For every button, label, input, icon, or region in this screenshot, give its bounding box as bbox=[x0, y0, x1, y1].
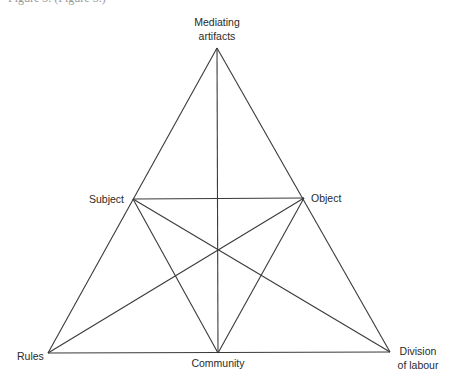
node-label-subject: Subject bbox=[89, 192, 124, 206]
node-label-object: Object bbox=[311, 191, 341, 205]
activity-triangle-diagram bbox=[0, 0, 454, 388]
node-label-rules: Rules bbox=[17, 349, 44, 363]
edge-object-rules bbox=[48, 198, 304, 353]
edge-subject-division bbox=[133, 199, 390, 352]
node-label-mediating-artifacts: Mediating artifacts bbox=[187, 15, 247, 43]
division-line1: Division bbox=[393, 344, 443, 358]
node-label-division-of-labour: Division of labour bbox=[393, 344, 443, 372]
mediating-artifacts-line2: artifacts bbox=[187, 29, 247, 43]
edge-subject-object bbox=[133, 198, 304, 199]
edge-artifacts-community bbox=[217, 48, 218, 353]
edge-artifacts-rules bbox=[48, 48, 217, 353]
node-label-community: Community bbox=[188, 356, 248, 370]
division-line2: of labour bbox=[393, 358, 443, 372]
mediating-artifacts-line1: Mediating bbox=[187, 15, 247, 29]
